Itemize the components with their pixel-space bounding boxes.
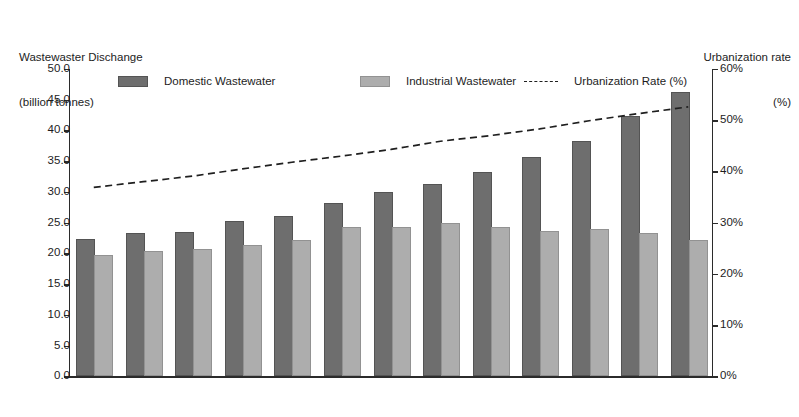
bar-domestic: [274, 216, 293, 377]
left-axis-tick-label: 25.0: [10, 217, 70, 229]
left-axis-tick-label: 15.0: [10, 278, 70, 290]
bar-industrial: [292, 240, 311, 377]
right-axis-title-line2: (%): [703, 95, 791, 110]
bar-domestic: [126, 233, 145, 376]
left-axis-tick-label: 35.0: [10, 155, 70, 167]
bar-industrial: [540, 231, 559, 377]
bar-domestic: [522, 157, 541, 377]
bar-industrial: [441, 223, 460, 376]
left-axis-tick-label: 30.0: [10, 186, 70, 198]
bar-industrial: [243, 245, 262, 376]
bar-industrial: [144, 251, 163, 376]
right-axis-tick-label: 60%: [720, 63, 780, 75]
right-axis-tick-label: 20%: [720, 268, 780, 280]
chart-figure: Wastewaster Dischange (billion tonnes) U…: [0, 0, 799, 417]
bar-industrial: [689, 240, 708, 376]
right-axis-tick-label: 0%: [720, 371, 780, 383]
bar-domestic: [671, 92, 690, 377]
right-axis-tick: [712, 69, 718, 70]
bar-domestic: [76, 239, 95, 376]
bar-industrial: [94, 255, 113, 376]
bar-domestic: [175, 232, 194, 376]
right-axis-tick-label: 10%: [720, 319, 780, 331]
bar-industrial: [193, 249, 212, 376]
bar-domestic: [621, 116, 640, 377]
bar-industrial: [639, 233, 658, 376]
right-axis-tick-label: 50%: [720, 114, 780, 126]
right-axis-tick: [712, 223, 718, 224]
bar-domestic: [423, 184, 442, 376]
bar-domestic: [473, 172, 492, 376]
bottom-axis-line: [69, 376, 713, 378]
bar-industrial: [342, 227, 361, 377]
left-axis-tick-label: 45.0: [10, 94, 70, 106]
right-axis-tick: [712, 171, 718, 172]
bar-industrial: [491, 227, 510, 376]
bar-domestic: [374, 192, 393, 377]
left-axis-tick-label: 40.0: [10, 125, 70, 137]
right-axis-tick: [712, 325, 718, 326]
left-axis-tick-label: 50.0: [10, 63, 70, 75]
bar-domestic: [572, 141, 591, 376]
left-axis-tick-label: 20.0: [10, 248, 70, 260]
right-axis-tick-label: 40%: [720, 166, 780, 178]
bar-industrial: [392, 227, 411, 376]
bar-industrial: [590, 229, 609, 377]
plot-area: 0.05.010.015.020.025.030.035.040.045.050…: [69, 69, 713, 378]
right-axis-tick: [712, 376, 718, 377]
bar-domestic: [225, 221, 244, 376]
left-axis-tick-label: 0.0: [10, 371, 70, 383]
right-axis-tick: [712, 120, 718, 121]
right-axis-tick: [712, 274, 718, 275]
right-axis-tick-label: 30%: [720, 217, 780, 229]
left-axis-tick-label: 10.0: [10, 309, 70, 321]
left-axis-tick-label: 5.0: [10, 340, 70, 352]
bar-domestic: [324, 203, 343, 377]
